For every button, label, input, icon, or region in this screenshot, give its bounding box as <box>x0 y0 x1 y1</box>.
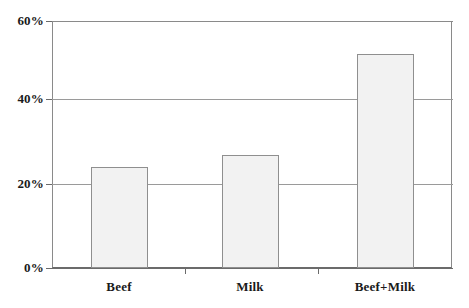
y-tick-mark-20 <box>46 184 52 185</box>
y-tick-label-40: 40% <box>0 92 44 105</box>
x-separator-2 <box>318 268 319 274</box>
y-tick-label-60: 60% <box>0 14 44 27</box>
gridline-60 <box>52 21 453 22</box>
y-tick-label-0: 0% <box>0 261 44 274</box>
bar-beef-milk <box>357 54 414 268</box>
x-separator-1 <box>185 268 186 274</box>
y-tick-mark-60 <box>46 21 52 22</box>
bar-beef <box>91 167 148 268</box>
bar-milk <box>222 155 279 268</box>
x-tick-label-beef-milk: Beef+Milk <box>305 280 465 293</box>
y-tick-mark-0 <box>46 268 52 269</box>
bar-chart: 60% 40% 20% 0% Beef Milk Beef+Milk <box>0 0 469 308</box>
y-tick-label-20: 20% <box>0 177 44 190</box>
axis-line-x <box>52 268 453 269</box>
y-tick-mark-40 <box>46 99 52 100</box>
